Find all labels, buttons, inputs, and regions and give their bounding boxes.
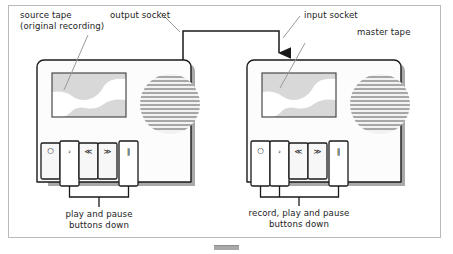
label-master-tape: master tape (357, 27, 411, 38)
bottom-marker-bar (214, 245, 239, 250)
master-deck: ○ › ≪ ≫ ‖ (247, 60, 412, 206)
source-transport-buttons[interactable]: ○ › ≪ ≫ ‖ (41, 141, 138, 186)
record-icon: ○ (257, 146, 264, 155)
play-icon: › (68, 147, 71, 156)
left-caption-bracket (70, 186, 129, 207)
pause-icon: ‖ (337, 147, 341, 156)
right-caption-bracket (261, 186, 339, 206)
play-icon: › (278, 147, 281, 156)
fast-forward-icon: ≫ (314, 147, 322, 156)
pause-icon: ‖ (127, 147, 131, 156)
master-transport-buttons[interactable]: ○ › ≪ ≫ ‖ (251, 141, 348, 186)
caption-left-buttons: play and pause buttons down (49, 209, 149, 231)
rewind-icon: ≪ (85, 147, 93, 156)
label-input-socket: input socket (304, 10, 358, 21)
master-tape-window (262, 73, 336, 118)
source-deck: ○ › ≪ ≫ ‖ (37, 60, 202, 207)
label-source-tape: source tape (original recording) (20, 10, 104, 32)
connection-cable (183, 31, 279, 60)
caption-right-buttons: record, play and pause buttons down (234, 208, 364, 230)
label-output-socket: output socket (110, 10, 170, 21)
source-tape-window (52, 73, 126, 118)
leader-input-socket (283, 16, 300, 38)
diagram-canvas: ○ › ≪ ≫ ‖ (0, 0, 453, 254)
fast-forward-icon: ≫ (104, 147, 112, 156)
rewind-icon: ≪ (295, 147, 303, 156)
record-icon: ○ (47, 146, 54, 155)
